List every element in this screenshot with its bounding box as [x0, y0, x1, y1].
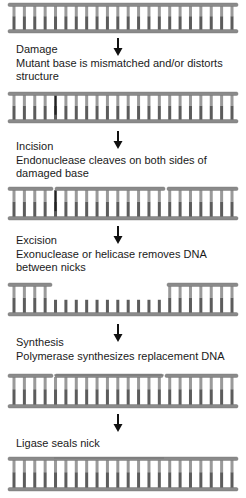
dna-ladder-excised: [0, 282, 246, 317]
step-description-line: between nicks: [16, 261, 207, 275]
step-description-line: damaged base: [16, 167, 207, 181]
step-synthesis-text: Synthesis Polymerase synthesizes replace…: [16, 336, 224, 363]
step-title: Synthesis: [16, 336, 224, 350]
step-description-line: Ligase seals nick: [16, 437, 100, 451]
step-excision-text: Excision Exonuclease or helicase removes…: [16, 234, 207, 275]
step-description-line: Exonuclease or helicase removes DNA: [16, 248, 207, 262]
dna-ladder-synthesized: [0, 373, 246, 409]
step-damage-text: Damage Mutant base is mismatched and/or …: [16, 43, 223, 84]
dna-ladder-damaged: [0, 91, 246, 124]
step-description-line: structure: [16, 70, 223, 84]
dna-ladder-ligated: [0, 456, 246, 492]
dna-ladder-incised: [0, 186, 246, 221]
step-title: Excision: [16, 234, 207, 248]
down-arrow-icon: [113, 414, 123, 432]
step-title: Damage: [16, 43, 223, 57]
step-incision-text: Incision Endonuclease cleaves on both si…: [16, 140, 207, 181]
step-description-line: Mutant base is mismatched and/or distort…: [16, 57, 223, 71]
step-title: Incision: [16, 140, 207, 154]
step-description-line: Endonuclease cleaves on both sides of: [16, 154, 207, 168]
dna-ladder-initial: [0, 2, 246, 34]
step-ligation-text: Ligase seals nick: [16, 437, 100, 451]
step-description-line: Polymerase synthesizes replacement DNA: [16, 350, 224, 364]
